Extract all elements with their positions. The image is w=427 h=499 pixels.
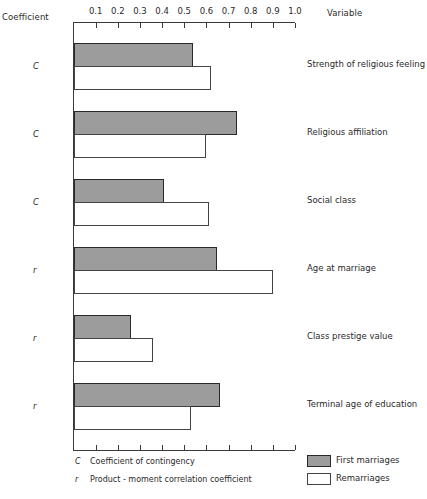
top-tick [162, 23, 163, 28]
bar-remarriages [74, 134, 207, 158]
bar-first-marriages [74, 179, 165, 203]
variable-label: Strength of religious feeling [307, 59, 425, 69]
bottom-tick [118, 445, 119, 450]
tick-label: 0.7 [222, 6, 236, 16]
tick-label: 0.4 [155, 6, 169, 16]
coefficient-label: C [33, 61, 39, 71]
bottom-tick [251, 445, 252, 450]
bottom-tick [273, 445, 274, 450]
legend-swatch-first-marriages [307, 455, 331, 467]
variable-label: Religious affiliation [307, 127, 388, 137]
top-tick [273, 23, 274, 28]
note-correlation: rProduct - moment correlation coefficien… [75, 475, 252, 484]
coefficient-label: C [33, 129, 39, 139]
bar-remarriages [74, 66, 211, 90]
coefficient-label: C [33, 197, 39, 207]
bar-first-marriages [74, 247, 218, 271]
top-tick [295, 23, 296, 28]
bottom-tick [140, 445, 141, 450]
bar-remarriages [74, 338, 154, 362]
top-tick [184, 23, 185, 28]
tick-label: 0.1 [89, 6, 103, 16]
top-tick [140, 23, 141, 28]
bar-first-marriages [74, 111, 238, 135]
variable-label: Age at marriage [307, 263, 376, 273]
bottom-tick [295, 445, 296, 450]
bar-remarriages [74, 270, 273, 294]
tick-label: 0.2 [111, 6, 125, 16]
top-tick [229, 23, 230, 28]
bottom-tick [229, 445, 230, 450]
bar-first-marriages [74, 315, 132, 339]
tick-label: 0.9 [266, 6, 280, 16]
legend-label-first-marriages: First marriages [336, 455, 400, 465]
tick-label: 0.3 [133, 6, 147, 16]
bottom-tick [96, 445, 97, 450]
bar-chart: 0.10.20.30.40.50.60.70.80.91.0 CCCrrr St… [0, 0, 427, 499]
coefficient-label: r [33, 333, 37, 343]
top-tick [206, 23, 207, 28]
bottom-axis [73, 450, 295, 451]
top-tick [251, 23, 252, 28]
note-contingency: CCoefficient of contingency [75, 457, 195, 466]
tick-label: 0.8 [244, 6, 258, 16]
bar-first-marriages [74, 43, 194, 67]
tick-label: 0.6 [200, 6, 214, 16]
bar-remarriages [74, 202, 209, 226]
coefficient-label: r [33, 265, 37, 275]
variable-label: Social class [307, 195, 356, 205]
bottom-tick [206, 445, 207, 450]
bar-first-marriages [74, 383, 220, 407]
top-tick [96, 23, 97, 28]
bar-remarriages [74, 406, 191, 430]
top-tick [118, 23, 119, 28]
tick-label: 0.5 [177, 6, 191, 16]
coefficient-label: r [33, 401, 37, 411]
legend-label-remarriages: Remarriages [336, 473, 390, 483]
tick-label: 1.0 [288, 6, 302, 16]
variable-label: Class prestige value [307, 331, 393, 341]
variable-label: Terminal age of education [307, 399, 417, 409]
bottom-tick [162, 445, 163, 450]
bottom-tick [184, 445, 185, 450]
legend-swatch-remarriages [307, 473, 331, 485]
